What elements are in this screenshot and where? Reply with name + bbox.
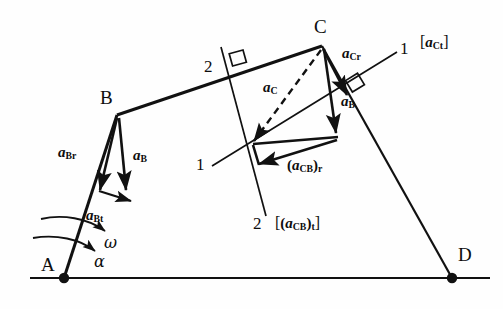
vector-label-a-CB-r-sub: CB <box>300 163 314 174</box>
point-label-C: C <box>314 17 327 36</box>
omega-label: ω <box>104 235 117 251</box>
alpha-label: α <box>94 254 105 270</box>
vector-label-a-B-crank: aB <box>133 148 147 164</box>
link-AB <box>64 115 117 278</box>
vector-label-a-Bt-sub: Bt <box>94 213 104 224</box>
pivot-A <box>59 273 69 283</box>
vector-label-a-CB-r: (aCB)r <box>287 158 322 174</box>
bracket-close-cbt: ] <box>315 214 320 231</box>
vector-label-a-C-base: a <box>263 79 271 95</box>
vector-label-a-Bt-base: a <box>86 207 94 223</box>
vector-label-a-Ct-sub: Ct <box>433 40 443 51</box>
link-CD <box>322 46 452 278</box>
vector-label-a-Br-base: a <box>58 144 66 160</box>
vector-label-a-Cr-sub: Cr <box>350 51 361 62</box>
polygon-side-left <box>253 145 259 165</box>
right-angle-marker-line2 <box>229 50 246 66</box>
vector-label-a-B-crank-base: a <box>133 147 141 163</box>
vector-label-a-Br: aBr <box>58 145 76 161</box>
point-label-D: D <box>458 245 472 264</box>
construction-line-2-top-label: 2 <box>204 58 213 75</box>
vector-a-Bt <box>99 191 131 201</box>
pivot-D <box>447 273 457 283</box>
vector-label-a-B-transferred-sub: B <box>349 99 356 110</box>
alpha-arc <box>33 237 95 251</box>
vector-label-a-Br-sub: Br <box>66 150 77 161</box>
construction-line-1-right-label: 1 <box>400 40 409 57</box>
vector-label-a-CB-t-sub: CB <box>293 221 307 232</box>
point-label-A: A <box>41 255 55 274</box>
vector-label-a-Ct: [aCt] <box>420 34 448 51</box>
vector-label-a-Bt: aBt <box>86 208 103 224</box>
construction-line-2-bottom-label: 2 <box>253 215 262 232</box>
vector-label-a-CB-t: [(aCB)t] <box>275 215 320 232</box>
link-BC <box>117 46 322 115</box>
construction-line-1-left-label: 1 <box>196 156 205 173</box>
vector-a-B-crank <box>119 118 126 190</box>
vector-label-a-CB-r-base: a <box>292 157 300 173</box>
vector-a-Br <box>100 118 117 190</box>
vector-label-a-C: aC <box>263 80 278 96</box>
bracket-close-ct: ] <box>443 33 448 50</box>
point-label-B: B <box>100 88 113 107</box>
vector-label-a-C-sub: C <box>271 85 278 96</box>
vector-label-a-Cr: aCr <box>342 46 361 62</box>
vector-label-a-CB-t-base: a <box>285 215 293 231</box>
vector-label-a-B-transferred-base: a <box>341 93 349 109</box>
vector-label-a-CB-r-suffix: r <box>318 163 322 174</box>
vector-label-a-Cr-base: a <box>342 45 350 61</box>
vector-label-a-Ct-base: a <box>425 34 433 50</box>
vector-label-a-B-transferred: aB <box>341 94 355 110</box>
vector-label-a-B-crank-sub: B <box>141 153 148 164</box>
acceleration-diagram-figure: A B C D 2 2 1 1 aBr aB aBt ω α aC aCr aB… <box>0 0 503 309</box>
